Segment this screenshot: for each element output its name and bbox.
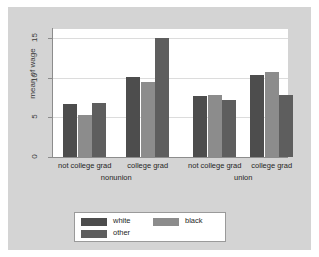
x-axis-group-label: college grad [232,161,312,170]
bar-other-0 [92,103,106,157]
bar-other-2 [222,100,236,157]
legend-swatch-white [81,218,107,226]
bar-other-3 [279,95,293,157]
y-axis-tick-label: 15 [30,23,39,53]
y-axis-tick-label: 10 [30,62,39,92]
gridline [53,38,288,39]
legend-swatch-black [153,218,179,226]
bar-black-1 [141,82,155,157]
y-axis-tick [48,78,52,79]
bar-white-2 [193,96,207,157]
bar-black-3 [265,72,279,157]
bar-white-0 [63,104,77,157]
legend-label-other: other [113,228,130,237]
y-axis-tick [48,117,52,118]
x-axis-line [52,157,288,158]
plot-area [53,29,288,157]
x-axis-supergroup-label: nonunion [76,173,156,182]
y-axis-tick-label: 0 [30,142,39,172]
x-axis-supergroup-label: union [203,173,283,182]
legend-swatch-other [81,230,107,238]
legend-label-black: black [185,216,203,225]
figure-canvas: mean of wage 051015not college gradcolle… [8,7,311,250]
legend-label-white: white [113,216,131,225]
bar-white-3 [250,75,264,157]
y-axis-tick [48,157,52,158]
y-axis-tick-label: 5 [30,102,39,132]
y-axis-line [52,28,53,158]
legend: whiteblackother [74,212,226,242]
y-axis-tick [48,38,52,39]
bar-black-2 [208,95,222,157]
bar-white-1 [126,77,140,157]
bar-black-0 [78,115,92,157]
bar-other-1 [155,38,169,157]
